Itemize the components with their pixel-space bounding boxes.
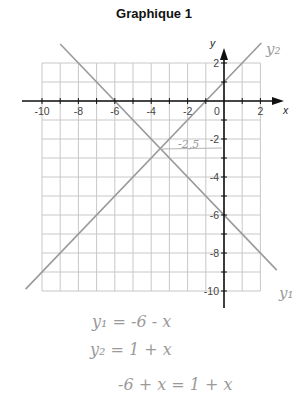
y-tick-label: -2 [210, 133, 219, 145]
x-tick-label: -4 [147, 105, 156, 117]
line-y2 [26, 43, 262, 289]
y-axis-arrow-icon [220, 48, 228, 60]
x-tick-label: -8 [74, 105, 83, 117]
grid [42, 63, 260, 291]
x-tick-label: -2 [183, 105, 192, 117]
graph-title: Graphique 1 [116, 6, 192, 21]
handwritten-equation-1: y₁ = -6 - x [91, 312, 171, 331]
x-axis-label: x [282, 104, 289, 116]
x-tick-labels: -10-8-6-4-202 [34, 105, 263, 117]
axes: x y [22, 37, 289, 308]
y-tick-label: -8 [210, 247, 219, 259]
x-tick-label: 2 [257, 105, 263, 117]
y-tick-label: -6 [210, 209, 219, 221]
line-label-y2: y₂ [265, 40, 281, 58]
x-tick-label: -6 [110, 105, 119, 117]
intersection-annotation: -2,5 [178, 138, 199, 151]
x-tick-label: -10 [34, 105, 49, 117]
y-axis-label: y [209, 37, 216, 49]
x-tick-label: 0 [214, 105, 220, 117]
graph-figure: Graphique 1 x y -10-8-6-4-202 2-2-4-6-8-… [0, 0, 308, 401]
y-tick-label: -10 [204, 285, 219, 297]
line-y1 [60, 44, 277, 270]
line-label-y1: y₁ [278, 284, 294, 302]
y-tick-label: -4 [210, 171, 219, 183]
coordinate-plane: Graphique 1 x y -10-8-6-4-202 2-2-4-6-8-… [0, 0, 308, 401]
y-tick-label: 2 [213, 57, 219, 69]
handwritten-equation-2: y₂ = 1 + x [89, 340, 172, 359]
handwritten-equation-3: -6 + x = 1 + x [118, 375, 233, 394]
